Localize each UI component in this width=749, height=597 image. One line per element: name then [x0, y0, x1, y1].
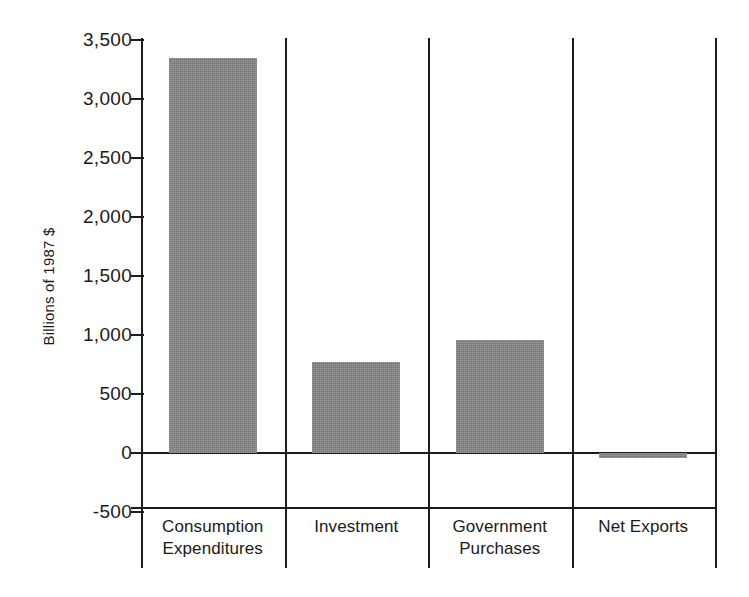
x-axis-category-labels: ConsumptionExpendituresInvestmentGovernm… — [0, 0, 749, 597]
category-label-line-2: Purchases — [428, 538, 572, 560]
category-label-line-2: Expenditures — [141, 538, 285, 560]
category-label-line-1: Consumption — [162, 517, 263, 536]
category-label: ConsumptionExpenditures — [141, 516, 285, 560]
bar-chart: Billions of 1987 $ 3,5003,0002,5002,0001… — [0, 0, 749, 597]
category-label: Investment — [285, 516, 429, 538]
category-label-line-1: Net Exports — [598, 517, 688, 536]
category-label-line-1: Government — [452, 517, 547, 536]
category-label: Net Exports — [572, 516, 716, 538]
category-label: GovernmentPurchases — [428, 516, 572, 560]
category-label-line-1: Investment — [314, 517, 398, 536]
